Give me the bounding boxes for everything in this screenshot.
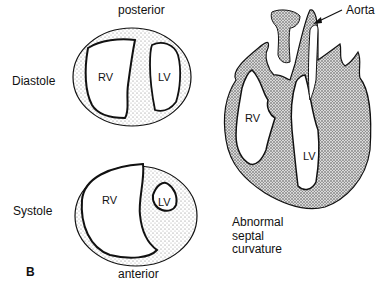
aorta-arrow — [313, 10, 342, 24]
diastole-cross-section — [73, 28, 191, 126]
caption-line: curvature — [232, 243, 283, 257]
septal-curvature-caption: Abnormal septal curvature — [232, 216, 283, 257]
diastole-rv-label: RV — [98, 71, 113, 84]
caption-line: Abnormal — [232, 216, 283, 230]
anterior-label: anterior — [118, 268, 159, 281]
heart-diagram — [0, 0, 385, 285]
posterior-label: posterior — [118, 4, 165, 17]
systole-lv-label: LV — [158, 196, 171, 209]
caption-line: septal — [232, 230, 283, 244]
diastole-label: Diastole — [12, 75, 55, 88]
diastole-lv-label: LV — [158, 71, 171, 84]
systole-rv-label: RV — [102, 194, 117, 207]
long-axis-heart — [224, 10, 370, 209]
long-axis-rv-label: RV — [245, 112, 260, 125]
systole-cross-section — [75, 164, 197, 266]
panel-label: B — [26, 266, 35, 279]
systole-label: Systole — [13, 205, 52, 218]
long-axis-lv-label: LV — [303, 150, 316, 163]
aorta-label: Aorta — [346, 4, 375, 17]
